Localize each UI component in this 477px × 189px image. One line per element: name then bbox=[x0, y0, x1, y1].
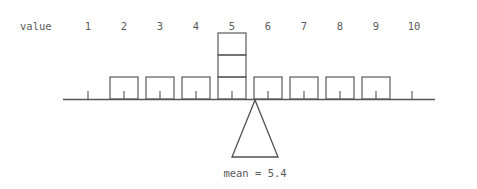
axis-label-10: 10 bbox=[408, 20, 421, 32]
axis-label-3: 3 bbox=[157, 20, 163, 32]
balance-point-mean-figure: value 1 2 3 4 5 6 7 8 9 10 bbox=[0, 0, 477, 189]
axis-label-group: 1 2 3 4 5 6 7 8 9 10 bbox=[85, 20, 420, 32]
axis-label-4: 4 bbox=[193, 20, 199, 32]
axis-label-5: 5 bbox=[229, 20, 235, 32]
data-block bbox=[218, 33, 246, 55]
row-label: value bbox=[20, 20, 52, 32]
axis-label-7: 7 bbox=[301, 20, 307, 32]
axis-label-9: 9 bbox=[373, 20, 379, 32]
axis-label-6: 6 bbox=[265, 20, 271, 32]
mean-label: mean = 5.4 bbox=[223, 167, 286, 179]
data-block bbox=[218, 55, 246, 77]
axis-label-1: 1 bbox=[85, 20, 91, 32]
tick-mark-group bbox=[88, 91, 412, 99]
data-block-group bbox=[110, 33, 390, 99]
fulcrum-triangle bbox=[232, 100, 278, 157]
axis-label-8: 8 bbox=[337, 20, 343, 32]
axis-label-2: 2 bbox=[121, 20, 127, 32]
